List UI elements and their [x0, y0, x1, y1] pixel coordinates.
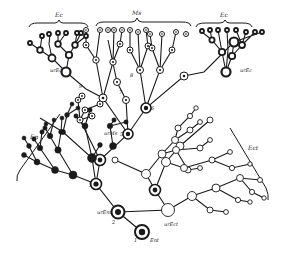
gen-number: 3	[89, 183, 92, 188]
group-label-ect: Ect	[248, 145, 258, 151]
node-label-urms: urMs	[104, 131, 117, 136]
group-label-ec-left: Ec	[55, 12, 63, 18]
gen-number: 6	[151, 106, 154, 111]
gen-number: 5	[120, 132, 123, 137]
lineage-tree-diagram	[0, 0, 286, 254]
gen-number: 9	[79, 84, 82, 89]
node-label-urec-right: urEc	[240, 68, 252, 73]
node-label-ent-root: Ent	[150, 238, 159, 243]
gen-number: 7	[119, 90, 122, 95]
bracket-ec-left	[29, 20, 88, 27]
gen-number: 2	[112, 220, 115, 225]
node-label-urec-left: urEc	[50, 68, 62, 73]
node-label-urect: urEct	[164, 222, 178, 227]
gen-number: 8	[130, 73, 133, 78]
gen-number: 4	[92, 156, 95, 161]
bracket-ec-right	[196, 20, 252, 27]
group-label-ms: Ms	[132, 10, 141, 16]
node-label-urent: urEnt	[97, 210, 112, 215]
group-label-ec-right: Ec	[220, 12, 228, 18]
gen-number: 1	[134, 238, 137, 243]
group-label-en: En	[30, 134, 38, 140]
nodes-ect	[112, 106, 266, 217]
bracket-ms	[96, 18, 191, 26]
